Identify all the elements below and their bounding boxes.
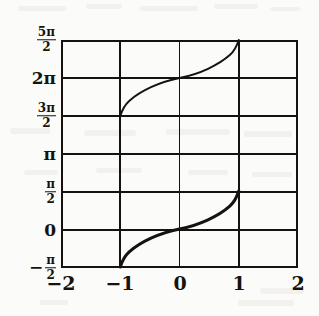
- fraction-numerator: 5π: [37, 26, 56, 40]
- fraction-pi-over-2: π 2: [45, 178, 56, 205]
- label-pi: π: [44, 146, 56, 163]
- plot-area: [61, 40, 298, 268]
- y-axis-tick-labels: 5π 2 2π 3π 2 π π 2 0 − π: [0, 40, 56, 268]
- y-tick-2pi: 2π: [32, 70, 56, 87]
- curve-arcsin: [120, 191, 239, 267]
- label-zero: 0: [44, 221, 56, 238]
- fraction-denominator: 2: [37, 116, 56, 129]
- y-tick-zero: 0: [44, 221, 56, 238]
- x-tick-minus2: −2: [46, 274, 75, 293]
- curve-arcsin-plus-2pi: [120, 40, 239, 116]
- x-tick-one: 1: [232, 274, 245, 293]
- fraction-numerator: 3π: [37, 102, 56, 116]
- fraction-5pi-over-2: 5π 2: [37, 26, 56, 53]
- x-tick-two: 2: [291, 274, 304, 293]
- curve-layer: [61, 40, 298, 268]
- x-tick-minus1: −1: [105, 274, 134, 293]
- y-tick-5pi-over-2: 5π 2: [37, 26, 56, 53]
- y-tick-3pi-over-2: 3π 2: [37, 102, 56, 129]
- fraction-denominator: 2: [45, 193, 56, 206]
- fraction-numerator: π: [45, 254, 56, 268]
- x-tick-zero: 0: [173, 274, 186, 293]
- y-tick-pi: π: [44, 146, 56, 163]
- chart-figure: 5π 2 2π 3π 2 π π 2 0 − π: [0, 0, 319, 316]
- fraction-denominator: 2: [37, 41, 56, 54]
- y-tick-pi-over-2: π 2: [45, 178, 56, 205]
- label-2pi: 2π: [32, 70, 56, 87]
- x-axis-tick-labels: −2 −1 0 1 2: [0, 274, 319, 300]
- fraction-3pi-over-2: 3π 2: [37, 102, 56, 129]
- fraction-numerator: π: [45, 178, 56, 192]
